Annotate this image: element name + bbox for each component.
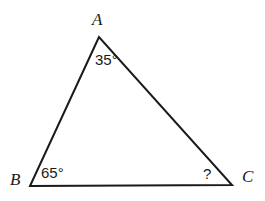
angle-label-c: ? (203, 166, 211, 181)
angle-label-b: 65° (41, 165, 64, 180)
vertex-label-a: A (92, 11, 102, 28)
vertex-label-c: C (242, 168, 253, 185)
triangle-shape (0, 0, 265, 201)
triangle-figure: A B C 35° 65° ? (0, 0, 265, 201)
vertex-label-b: B (10, 171, 20, 188)
angle-label-a: 35° (95, 52, 118, 67)
